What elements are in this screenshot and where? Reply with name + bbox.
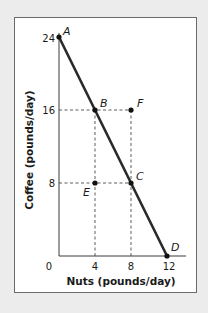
x-tick-4: 4 — [92, 261, 98, 272]
ppf-line — [59, 37, 167, 256]
label-f: F — [137, 97, 144, 110]
label-e: E — [83, 186, 90, 199]
point-b — [92, 107, 97, 112]
origin-label: 0 — [46, 261, 52, 272]
point-e — [92, 180, 97, 185]
y-tick-24: 24 — [42, 33, 55, 44]
point-d — [164, 253, 169, 258]
point-a — [56, 34, 61, 39]
x-tick-12: 12 — [163, 261, 176, 272]
label-c: C — [136, 170, 144, 183]
point-c — [128, 180, 133, 185]
x-axis-label: Nuts (pounds/day) — [66, 275, 175, 287]
label-b: B — [100, 97, 108, 110]
y-tick-16: 16 — [42, 105, 55, 116]
point-f — [128, 107, 133, 112]
label-a: A — [62, 25, 71, 38]
label-d: D — [171, 241, 179, 254]
x-tick-8: 8 — [128, 261, 134, 272]
y-axis-label: Coffee (pounds/day) — [23, 90, 35, 209]
y-tick-8: 8 — [49, 178, 55, 189]
